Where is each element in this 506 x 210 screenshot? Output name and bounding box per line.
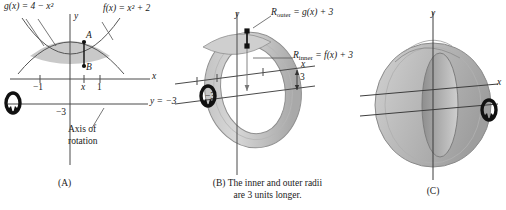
label-curve-g: g(x) = 4 − x²	[4, 2, 53, 12]
caption-panel-b-line2: are 3 units longer.	[175, 190, 360, 201]
caption-panel-b-line1: (B) The inner and outer radii	[175, 178, 360, 189]
label-x-axis: x	[301, 60, 305, 70]
label-x-axis: x	[152, 72, 156, 82]
panel-a: g(x) = 4 − x² f(x) = x² + 2 y x A B −1 x…	[0, 0, 175, 210]
label-y-axis: y	[431, 9, 435, 19]
panel-c: y x (C)	[360, 0, 506, 210]
point-a-dot	[82, 40, 86, 44]
leader-g2	[38, 19, 56, 46]
label-tick-neg3: −3	[56, 108, 66, 118]
label-r-inner-subscript: inner	[299, 54, 313, 61]
leader-g	[26, 19, 44, 46]
panel-c-graphic	[360, 0, 506, 210]
label-r-inner: Rinner = f(x) + 3	[293, 51, 353, 61]
label-dimension-three: 3	[300, 73, 305, 83]
label-point-b: B	[86, 63, 92, 73]
label-x-axis: x	[497, 78, 501, 88]
label-point-a: A	[86, 31, 92, 41]
label-tick-1: 1	[97, 83, 102, 93]
leader-r-outer	[253, 16, 271, 28]
label-r-outer: Router = g(x) + 3	[271, 8, 333, 18]
label-curve-f: f(x) = x² + 2	[103, 4, 150, 14]
rotation-arrow-icon	[6, 93, 20, 113]
label-tick-neg1: −1	[33, 83, 43, 93]
washer-method-figure: g(x) = 4 − x² f(x) = x² + 2 y x A B −1 x…	[0, 0, 506, 210]
label-axis-of-rotation-line2: rotation	[68, 136, 98, 147]
label-y-axis: y	[235, 10, 239, 20]
panel-b: y x Router = g(x) + 3 Rinner = f(x) + 3 …	[175, 0, 360, 210]
label-r-outer-subscript: outer	[277, 11, 291, 18]
label-axis-of-rotation-line1: Axis of	[68, 124, 96, 135]
caption-panel-a: (A)	[58, 178, 71, 189]
label-r-inner-equation: = f(x) + 3	[313, 50, 353, 60]
label-r-outer-equation: = g(x) + 3	[291, 7, 333, 17]
label-y-axis: y	[74, 12, 78, 22]
label-tick-neg3: −3	[205, 92, 215, 102]
label-tick-x: x	[81, 83, 85, 93]
solid-inner-hole	[422, 53, 458, 157]
caption-panel-c: (C)	[360, 186, 506, 197]
label-line-y-neg3: y = −3	[150, 97, 177, 107]
